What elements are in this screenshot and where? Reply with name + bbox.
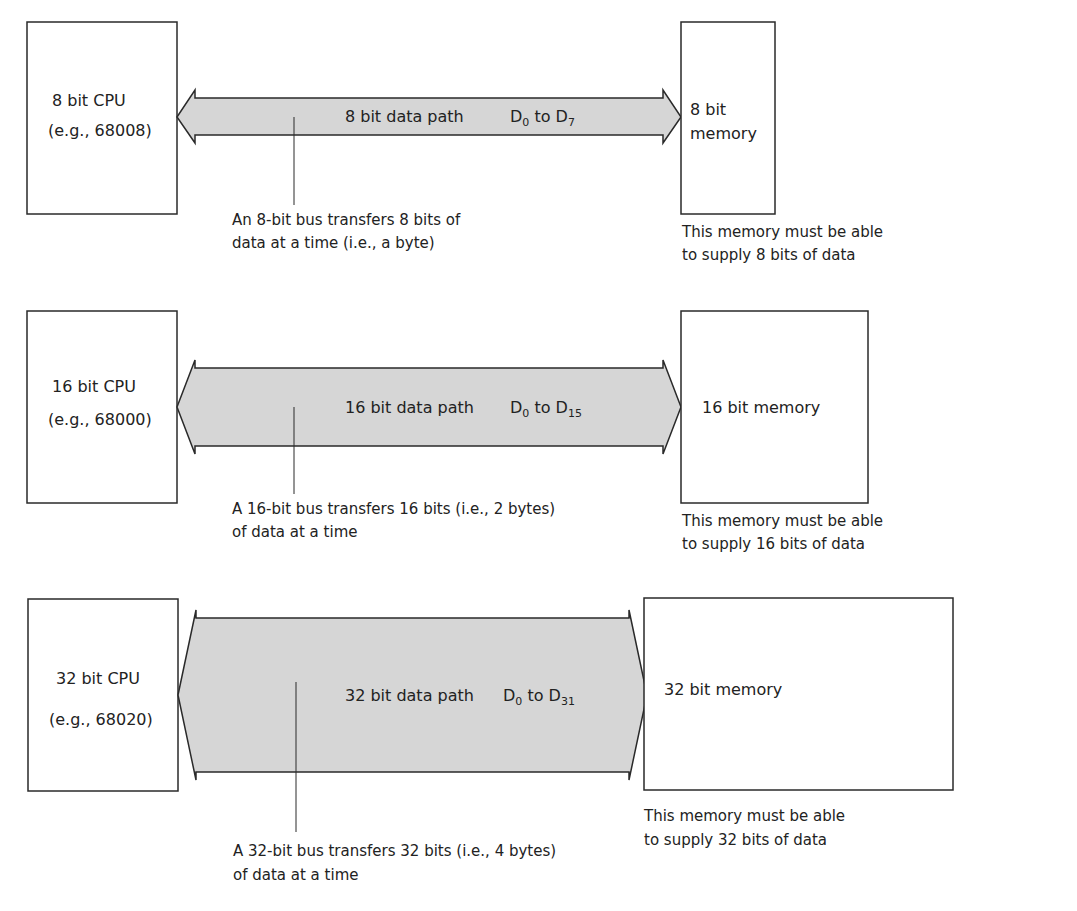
cpu-box-8bit (27, 22, 177, 214)
memory-note-16bit-line1: This memory must be able (682, 510, 883, 533)
memory-label-16bit: 16 bit memory (702, 396, 820, 420)
memory-label-8bit-line1: 8 bit (690, 98, 726, 122)
bus-range-16bit: D0 to D15 (510, 396, 582, 420)
cpu-label-32bit: 32 bit CPU (56, 667, 140, 691)
bus-note-32bit-line1: A 32-bit bus transfers 32 bits (i.e., 4 … (233, 840, 556, 863)
bus-range-8bit: D0 to D7 (510, 105, 575, 129)
bus-note-8bit-line2: data at a time (i.e., a byte) (232, 232, 435, 255)
cpu-example-8bit: (e.g., 68008) (48, 119, 152, 143)
memory-note-8bit-line2: to supply 8 bits of data (682, 244, 855, 267)
bus-note-32bit-line2: of data at a time (233, 864, 358, 887)
bus-label-32bit: 32 bit data path (345, 684, 474, 708)
bus-label-8bit: 8 bit data path (345, 105, 464, 129)
cpu-label-16bit: 16 bit CPU (52, 375, 136, 399)
diagram-canvas (0, 0, 1077, 911)
memory-label-32bit: 32 bit memory (664, 678, 782, 702)
bus-note-16bit-line2: of data at a time (232, 521, 357, 544)
cpu-example-16bit: (e.g., 68000) (48, 408, 152, 432)
memory-note-16bit-line2: to supply 16 bits of data (682, 533, 865, 556)
bus-note-16bit-line1: A 16-bit bus transfers 16 bits (i.e., 2 … (232, 498, 555, 521)
bus-label-16bit: 16 bit data path (345, 396, 474, 420)
memory-note-32bit-line1: This memory must be able (644, 805, 845, 828)
memory-note-32bit-line2: to supply 32 bits of data (644, 829, 827, 852)
cpu-box-16bit (27, 311, 177, 503)
cpu-label-8bit: 8 bit CPU (52, 89, 126, 113)
memory-note-8bit-line1: This memory must be able (682, 221, 883, 244)
cpu-example-32bit: (e.g., 68020) (49, 708, 153, 732)
cpu-box-32bit (28, 599, 178, 791)
memory-label-8bit-line2: memory (690, 122, 757, 146)
bus-note-8bit-line1: An 8-bit bus transfers 8 bits of (232, 209, 460, 232)
bus-range-32bit: D0 to D31 (503, 684, 575, 708)
